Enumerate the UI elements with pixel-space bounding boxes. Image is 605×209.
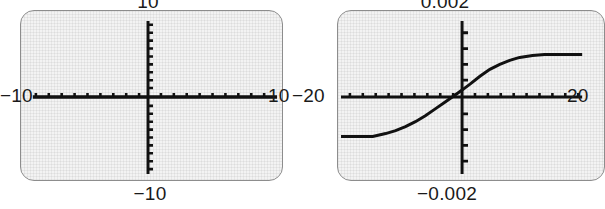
axis-label-left: −20 (292, 85, 325, 107)
axis-label-bottom: −10 (134, 183, 167, 205)
plot-area-right (338, 11, 604, 180)
axis-label-bottom: −0.002 (417, 183, 477, 205)
axis-label-top: 10 (137, 0, 159, 13)
axis-label-right: 20 (567, 85, 589, 107)
two-graph-figure: 10 −10 −10 10 (0, 0, 605, 209)
calculator-panel-left: 10 −10 −10 10 (0, 0, 302, 209)
calculator-screen-right (337, 10, 605, 181)
plot-area-left (21, 11, 282, 180)
axis-label-left: −10 (0, 85, 33, 107)
graph-svg-right (338, 11, 604, 180)
graph-svg-left (21, 11, 282, 180)
axis-label-right: 10 (268, 85, 290, 107)
axis-label-top: 0.002 (421, 0, 470, 13)
calculator-screen-left (20, 10, 283, 181)
calculator-panel-right: 0.002 −0.002 −20 20 (302, 0, 605, 209)
